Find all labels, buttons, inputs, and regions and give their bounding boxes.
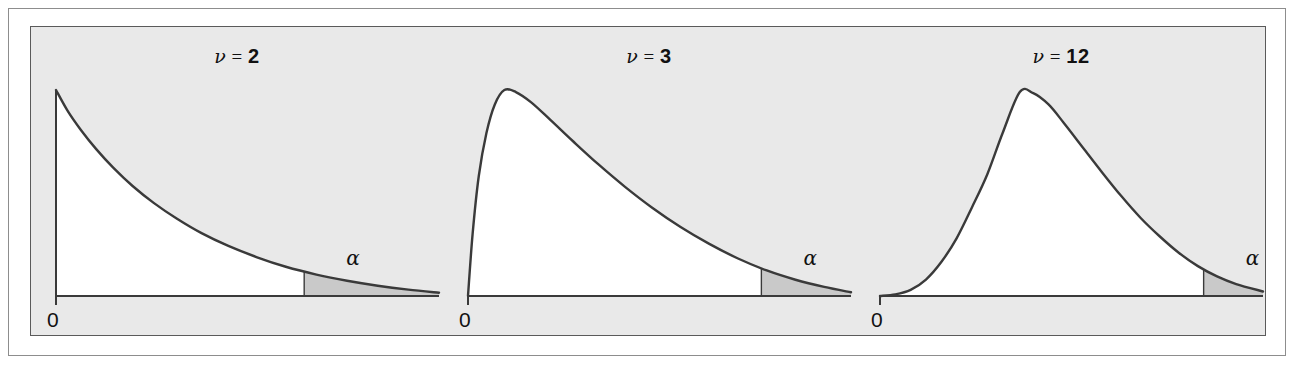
alpha-label: α bbox=[1246, 246, 1260, 270]
density-area bbox=[56, 90, 439, 296]
density-area bbox=[880, 89, 1263, 296]
panel-nu-3: ν = 30α bbox=[443, 27, 855, 335]
curve-plot-12 bbox=[855, 27, 1267, 335]
curve-plot-3 bbox=[443, 27, 855, 335]
origin-label: 0 bbox=[459, 308, 471, 332]
panel-nu-12: ν = 120α bbox=[855, 27, 1267, 335]
alpha-label: α bbox=[346, 246, 360, 270]
origin-label: 0 bbox=[47, 308, 59, 332]
origin-label: 0 bbox=[871, 308, 883, 332]
density-area bbox=[468, 89, 851, 296]
panel-group: ν = 20αν = 30αν = 120α bbox=[31, 27, 1267, 335]
alpha-label: α bbox=[803, 246, 817, 270]
figure-inner-panel: ν = 20αν = 30αν = 120α bbox=[30, 26, 1266, 336]
panel-nu-2: ν = 20α bbox=[31, 27, 443, 335]
curve-plot-2 bbox=[31, 27, 443, 335]
chi-square-distribution-figure: ν = 20αν = 30αν = 120α bbox=[0, 0, 1296, 366]
